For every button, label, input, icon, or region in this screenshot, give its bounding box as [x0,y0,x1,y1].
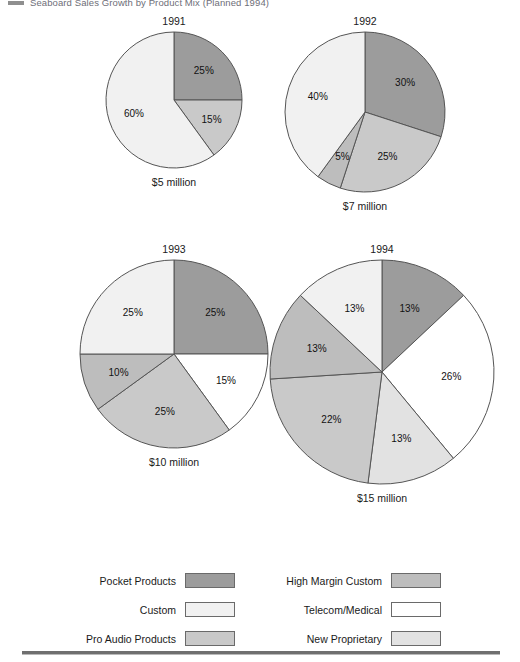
legend-item[interactable]: Pro Audio Products [85,631,235,646]
pie-chart-1992: 199230%25%5%40%$7 million [283,30,447,194]
legend-item[interactable]: New Proprietary [291,631,441,646]
pie-total-label: $15 million [268,492,496,504]
pie-svg-1993: 25%15%25%10%25% [78,258,270,450]
pie-year-label: 1991 [104,15,244,27]
pie-chart-1993: 199325%15%25%10%25%$10 million [78,258,270,450]
pie-slice-label: 13% [400,303,420,314]
pie-total-label: $5 million [104,176,244,188]
chart-legend: Pocket ProductsHigh Margin CustomCustomT… [85,566,445,653]
pie-svg-1994: 13%26%13%22%13%13% [268,258,496,486]
legend-item-label: Telecom/Medical [304,604,382,616]
pie-slice-label: 25% [155,406,175,417]
pie-total-label: $10 million [78,456,270,468]
pie-slice-label: 30% [395,77,415,88]
legend-item[interactable]: Custom [85,602,235,617]
pie-slice-label: 26% [441,371,461,382]
legend-item-label: Custom [140,604,176,616]
legend-item-label: Pocket Products [100,575,176,587]
pie-slice-label: 10% [109,367,129,378]
legend-item-label: High Margin Custom [286,575,382,587]
title-bullet-icon [8,1,24,5]
pie-slice-label: 15% [216,375,236,386]
pie-year-label: 1993 [78,243,270,255]
legend-swatch [391,573,441,588]
legend-swatch [391,631,441,646]
legend-swatch [185,631,235,646]
figure-title-text: Seaboard Sales Growth by Product Mix (Pl… [30,0,269,8]
legend-item[interactable]: Pocket Products [85,573,235,588]
pie-slice-label: 5% [335,151,350,162]
pie-slice-label: 15% [202,114,222,125]
pie-chart-1991: 199125%15%60%$5 million [104,30,244,170]
pie-slice [270,372,382,483]
pie-svg-1992: 30%25%5%40% [283,30,447,194]
pie-slice-label: 25% [205,307,225,318]
pie-slice-label: 40% [308,91,328,102]
pie-slice-label: 25% [123,307,143,318]
legend-item-label: Pro Audio Products [86,633,176,645]
legend-item[interactable]: High Margin Custom [291,573,441,588]
pie-year-label: 1994 [268,243,496,255]
legend-item-label: New Proprietary [307,633,382,645]
pie-slice-label: 13% [391,433,411,444]
sales-mix-figure: Seaboard Sales Growth by Product Mix (Pl… [0,0,520,662]
legend-item[interactable]: Telecom/Medical [291,602,441,617]
pie-chart-1994: 199413%26%13%22%13%13%$15 million [268,258,496,486]
pie-slice-label: 25% [378,151,398,162]
pie-total-label: $7 million [283,200,447,212]
legend-swatch [391,602,441,617]
bottom-divider [22,651,500,655]
pie-slice-label: 13% [344,303,364,314]
pie-slice-label: 13% [307,343,327,354]
legend-swatch [185,602,235,617]
pie-slice-label: 22% [321,414,341,425]
pie-year-label: 1992 [283,15,447,27]
figure-title: Seaboard Sales Growth by Product Mix (Pl… [8,0,269,8]
pie-slice-label: 25% [194,65,214,76]
pie-slice-label: 60% [124,108,144,119]
pie-svg-1991: 25%15%60% [104,30,244,170]
legend-swatch [185,573,235,588]
